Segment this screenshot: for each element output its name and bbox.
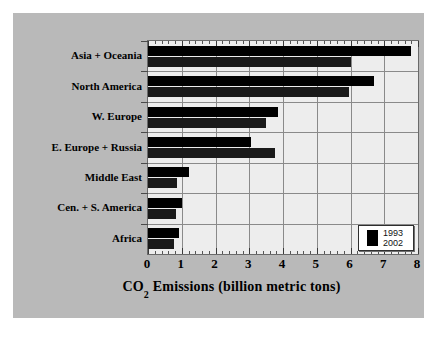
x-tick-minor bbox=[222, 41, 223, 44]
x-tick-minor bbox=[364, 251, 365, 254]
x-tick-minor bbox=[222, 251, 223, 254]
axis-title-prefix: CO bbox=[122, 279, 143, 294]
gridline-vertical bbox=[384, 41, 385, 254]
x-tick-minor bbox=[303, 41, 304, 44]
figure-panel: Asia + OceaniaNorth AmericaW. EuropeE. E… bbox=[13, 13, 424, 318]
bar-1993-w-europe bbox=[148, 118, 266, 128]
x-tick-minor bbox=[162, 251, 163, 254]
x-tick-label-2: 2 bbox=[211, 256, 218, 272]
x-tick-label-8: 8 bbox=[414, 256, 421, 272]
x-tick-minor bbox=[270, 41, 271, 44]
x-tick-minor bbox=[330, 41, 331, 44]
bar-2002-e-europe-russia bbox=[148, 137, 251, 147]
x-tick-minor bbox=[168, 41, 169, 44]
x-tick-label-3: 3 bbox=[245, 256, 252, 272]
x-tick-label-1: 1 bbox=[178, 256, 185, 272]
x-tick-major bbox=[249, 248, 250, 254]
x-tick-label-4: 4 bbox=[279, 256, 286, 272]
x-tick-minor bbox=[324, 41, 325, 44]
x-tick-minor bbox=[411, 251, 412, 254]
x-tick-minor bbox=[357, 251, 358, 254]
x-tick-minor bbox=[175, 251, 176, 254]
category-tick bbox=[141, 193, 148, 194]
x-tick-minor bbox=[263, 41, 264, 44]
x-tick-minor bbox=[195, 251, 196, 254]
x-tick-major bbox=[418, 41, 419, 47]
x-tick-minor bbox=[391, 41, 392, 44]
x-tick-minor bbox=[162, 41, 163, 44]
x-tick-minor bbox=[276, 251, 277, 254]
x-tick-label-0: 0 bbox=[144, 256, 151, 272]
x-tick-minor bbox=[391, 251, 392, 254]
category-tick bbox=[141, 224, 148, 225]
gridline-vertical bbox=[283, 41, 284, 254]
category-label-middle-east: Middle East bbox=[85, 171, 142, 183]
x-tick-minor bbox=[371, 41, 372, 44]
x-tick-minor bbox=[202, 251, 203, 254]
x-tick-minor bbox=[378, 41, 379, 44]
x-tick-major bbox=[182, 248, 183, 254]
x-tick-minor bbox=[229, 251, 230, 254]
x-tick-minor bbox=[398, 251, 399, 254]
x-tick-minor bbox=[411, 41, 412, 44]
legend-swatch-icon bbox=[367, 230, 378, 246]
x-tick-minor bbox=[168, 251, 169, 254]
x-tick-minor bbox=[324, 251, 325, 254]
x-axis-title: CO2 Emissions (billion metric tons) bbox=[26, 279, 437, 297]
x-tick-minor bbox=[155, 251, 156, 254]
x-tick-minor bbox=[310, 41, 311, 44]
legend-year-1993: 1993 bbox=[383, 228, 403, 238]
x-tick-minor bbox=[209, 251, 210, 254]
x-tick-minor bbox=[290, 251, 291, 254]
x-tick-label-7: 7 bbox=[380, 256, 387, 272]
x-tick-minor bbox=[371, 251, 372, 254]
page-canvas: Asia + OceaniaNorth AmericaW. EuropeE. E… bbox=[0, 0, 438, 339]
bar-2002-north-america bbox=[148, 76, 374, 86]
bar-2002-asia-oceania bbox=[148, 46, 411, 56]
x-tick-minor bbox=[297, 41, 298, 44]
x-tick-minor bbox=[357, 41, 358, 44]
x-tick-minor bbox=[236, 251, 237, 254]
x-tick-minor bbox=[337, 41, 338, 44]
category-tick bbox=[141, 163, 148, 164]
x-tick-minor bbox=[290, 41, 291, 44]
bar-1993-asia-oceania bbox=[148, 57, 351, 67]
x-tick-minor bbox=[202, 41, 203, 44]
x-tick-minor bbox=[263, 251, 264, 254]
axis-title-suffix: Emissions (billion metric tons) bbox=[149, 279, 341, 294]
x-tick-minor bbox=[209, 41, 210, 44]
x-tick-major bbox=[418, 248, 419, 254]
x-tick-minor bbox=[398, 41, 399, 44]
x-tick-minor bbox=[364, 41, 365, 44]
gridline-horizontal bbox=[148, 102, 418, 103]
category-axis-labels: Asia + OceaniaNorth AmericaW. EuropeE. E… bbox=[13, 40, 142, 253]
bar-2002-middle-east bbox=[148, 167, 189, 177]
x-tick-minor bbox=[405, 41, 406, 44]
x-tick-minor bbox=[276, 41, 277, 44]
gridline-horizontal bbox=[148, 163, 418, 164]
bar-1993-cen-s-america bbox=[148, 209, 176, 219]
x-tick-major bbox=[351, 248, 352, 254]
x-tick-minor bbox=[378, 251, 379, 254]
bar-2002-w-europe bbox=[148, 107, 278, 117]
x-tick-minor bbox=[175, 41, 176, 44]
x-tick-minor bbox=[195, 41, 196, 44]
x-axis-tick-labels: 012345678 bbox=[147, 256, 417, 274]
x-tick-minor bbox=[236, 41, 237, 44]
x-tick-label-6: 6 bbox=[346, 256, 353, 272]
x-tick-major bbox=[283, 248, 284, 254]
x-tick-minor bbox=[297, 251, 298, 254]
category-label-w-europe: W. Europe bbox=[92, 110, 142, 122]
x-tick-minor bbox=[344, 251, 345, 254]
category-label-e-europe-russia: E. Europe + Russia bbox=[52, 141, 142, 153]
x-tick-major bbox=[317, 248, 318, 254]
gridline-vertical bbox=[351, 41, 352, 254]
x-tick-minor bbox=[243, 251, 244, 254]
category-label-north-america: North America bbox=[71, 80, 142, 92]
x-tick-minor bbox=[330, 251, 331, 254]
legend-labels: 1993 2002 bbox=[383, 228, 403, 248]
x-tick-minor bbox=[189, 251, 190, 254]
category-label-africa: Africa bbox=[112, 232, 142, 244]
x-tick-minor bbox=[155, 41, 156, 44]
category-tick bbox=[141, 71, 148, 72]
